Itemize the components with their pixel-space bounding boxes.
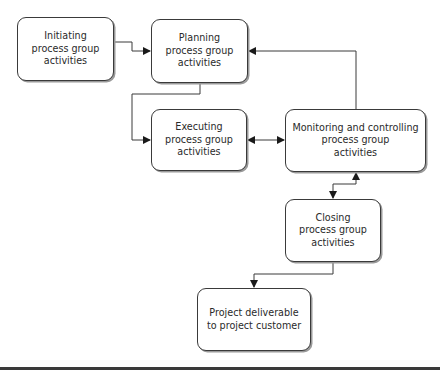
node-executing: Executing process group activities (151, 109, 247, 171)
node-deliverable: Project deliverable to project customer (197, 288, 311, 351)
node-planning: Planning process group activities (151, 19, 248, 83)
edge-monitoring-closing (333, 173, 356, 198)
node-planning-label: Planning process group activities (166, 32, 234, 69)
node-initiating: Initiating process group activities (17, 17, 114, 81)
node-closing: Closing process group activities (285, 199, 381, 262)
edge-initiating-planning (114, 42, 150, 51)
edge-closing-deliverable (254, 263, 333, 287)
node-executing-label: Executing process group activities (165, 121, 233, 158)
node-monitoring: Monitoring and controlling process group… (285, 109, 426, 172)
node-closing-label: Closing process group activities (299, 212, 367, 249)
node-deliverable-label: Project deliverable to project customer (207, 307, 301, 332)
node-monitoring-label: Monitoring and controlling process group… (292, 122, 418, 159)
edge-monitoring-planning (249, 51, 356, 109)
node-initiating-label: Initiating process group activities (32, 30, 100, 67)
